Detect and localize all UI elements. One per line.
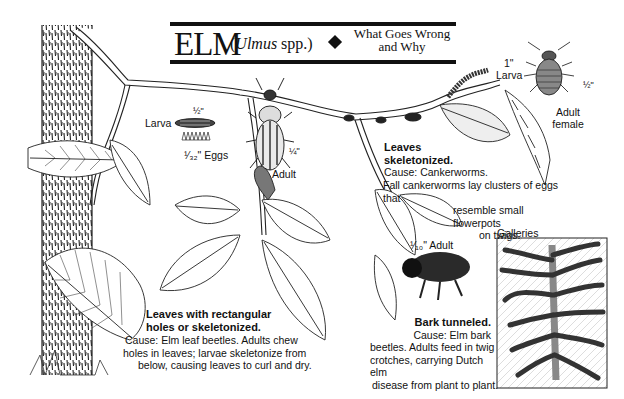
elm-leaf-beetle-larva-icon [175, 119, 215, 128]
caption-line: holes in leaves; larvae skeletonize from [123, 347, 323, 360]
caption-line: Cause: Cankerworms. [384, 166, 584, 179]
cankerworm-caption: Leaves skeletonized. Cause: Cankerworms. [384, 141, 584, 179]
bark-beetle-cause: beetles. Adults feed in twig crotches, c… [370, 341, 500, 391]
adult-label-line: Adult [543, 106, 593, 118]
caption-heading: holes or skeletonized. [146, 321, 261, 333]
caption-line: resemble small flowerpots [383, 204, 563, 229]
caption-line: below, causing leaves to curl and dry. [123, 359, 323, 372]
title-banner: ELM (Ulmus spp.) What Goes Wrong and Why [170, 22, 456, 64]
page-subtitle: What Goes Wrong and Why [348, 27, 456, 53]
elm-leaf-beetle-eggs-icon [182, 132, 210, 140]
bark-beetle-galleries-icon [497, 238, 607, 388]
adult-label-line: female [543, 118, 593, 130]
elm-leaf-beetle-adult-size: ¼" [289, 145, 300, 157]
caption-line: Cause: Elm bark [365, 329, 491, 342]
caption-heading: Leaves with rectangular [146, 308, 271, 320]
cankerworm-adult-label: Adult female [543, 106, 593, 130]
elm-leaf-beetle-larva-size: ½" [193, 105, 204, 117]
genus-name: Ulmus [235, 35, 277, 52]
caption-line: Fall cankerworms lay clusters of eggs th… [383, 179, 563, 204]
elm-leaf-beetle-eggs-label: ¹⁄₃₂" Eggs [184, 149, 228, 161]
scientific-name: (Ulmus spp.) [230, 34, 313, 54]
cankerworm-adult-size: ½" [583, 79, 594, 91]
elm-leaf-beetle-larva-label: Larva [145, 117, 171, 129]
diamond-icon [328, 35, 342, 49]
subtitle-line-2: and Why [348, 40, 456, 53]
caption-line: Cause: Elm leaf beetles. Adults chew [123, 334, 323, 347]
elm-leaf-beetle-cause: Cause: Elm leaf beetles. Adults chew hol… [123, 334, 323, 372]
caption-heading: skeletonized. [384, 154, 453, 166]
elm-bark-beetle-adult-icon [402, 252, 470, 300]
elm-leaf-beetle-adult-label: Adult [272, 168, 296, 180]
caption-heading: Bark tunneled. [415, 316, 491, 328]
elm-bark-beetle-adult-label: ¹⁄₁₀" Adult [410, 239, 453, 251]
elm-leaf-beetle-caption: Leaves with rectangular holes or skeleto… [142, 308, 322, 333]
title-rule-bottom [170, 60, 456, 64]
caption-line: disease from plant to plant. [370, 379, 500, 392]
cankerworm-larva-size: 1" [504, 57, 514, 69]
caption-line: beetles. Adults feed in twig [370, 341, 500, 354]
bark-beetle-caption: Bark tunneled. Cause: Elm bark [365, 316, 491, 341]
cankerworm-adult-female-icon [524, 42, 574, 95]
caption-line: crotches, carrying Dutch elm [370, 354, 500, 379]
cankerworm-larva-label: Larva [496, 69, 522, 81]
species-suffix: spp.) [277, 35, 313, 52]
galleries-label: Galleries [497, 227, 538, 239]
caption-heading: Leaves [384, 141, 421, 153]
